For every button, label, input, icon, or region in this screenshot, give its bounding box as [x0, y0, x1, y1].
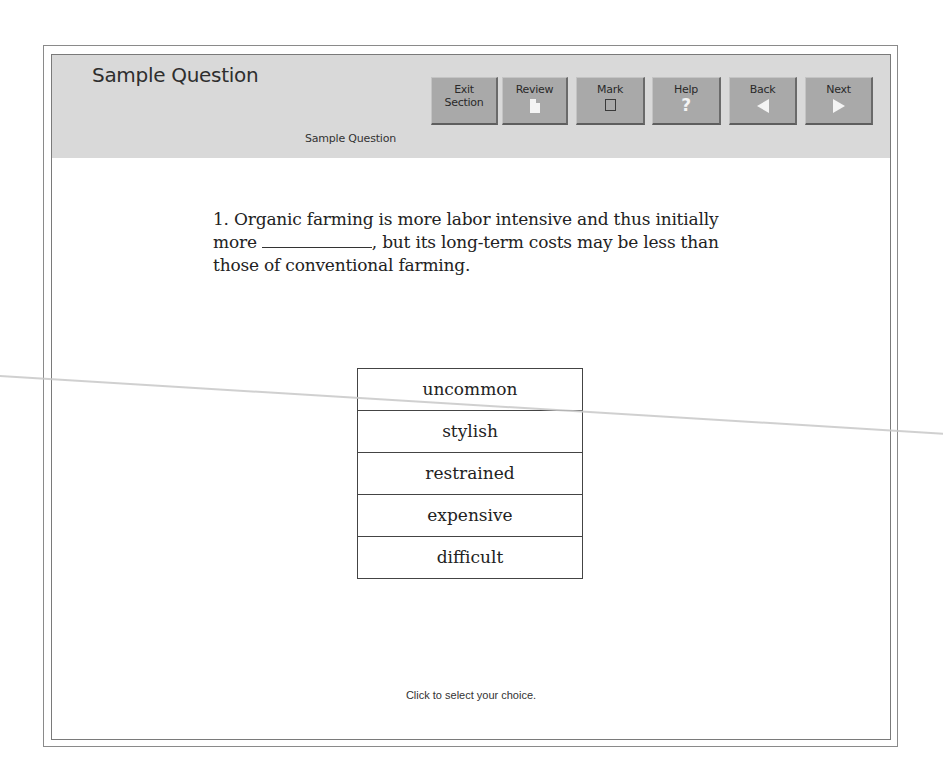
mark-label: Mark [577, 78, 643, 96]
arrow-right-icon [833, 99, 845, 113]
header-bar: Sample Question Sample Question Exit Sec… [52, 55, 890, 158]
checkbox-icon [605, 99, 616, 111]
answer-blank [262, 232, 372, 248]
back-label: Back [730, 78, 795, 96]
back-button[interactable]: Back [729, 77, 797, 125]
next-label: Next [806, 78, 871, 96]
exit-section-label-line2: Section [432, 96, 496, 110]
mark-button[interactable]: Mark [576, 77, 645, 125]
instruction-hint: Click to select your choice. [52, 689, 890, 701]
page-title: Sample Question [92, 63, 258, 87]
review-label: Review [503, 78, 566, 96]
choice-difficult[interactable]: difficult [358, 537, 582, 578]
choice-restrained[interactable]: restrained [358, 453, 582, 495]
exit-section-label-line1: Exit [432, 78, 496, 96]
next-button[interactable]: Next [805, 77, 873, 125]
help-label: Help [653, 78, 719, 96]
question-text: 1. Organic farming is more labor intensi… [213, 208, 753, 277]
question-mark-icon: ? [653, 97, 719, 113]
choice-expensive[interactable]: expensive [358, 495, 582, 537]
choice-stylish[interactable]: stylish [358, 411, 582, 453]
test-window: Sample Question Sample Question Exit Sec… [51, 54, 891, 740]
document-icon [530, 99, 540, 113]
section-subtitle: Sample Question [305, 132, 396, 145]
help-button[interactable]: Help ? [652, 77, 721, 125]
question-number: 1. [213, 209, 229, 229]
exit-section-button[interactable]: Exit Section [431, 77, 498, 125]
arrow-left-icon [757, 99, 769, 113]
review-button[interactable]: Review [502, 77, 568, 125]
